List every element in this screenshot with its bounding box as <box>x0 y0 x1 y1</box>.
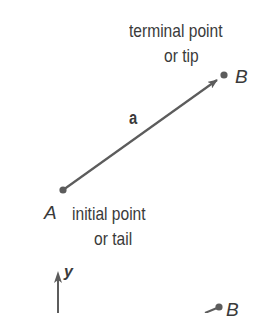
lower-vector-line <box>205 308 217 313</box>
vector-a-line <box>63 80 217 190</box>
tail-point-dot <box>59 186 66 193</box>
point-b-label: B <box>235 67 248 86</box>
terminal-point-label-line2: or tip <box>164 46 199 65</box>
lower-point-b-label: B <box>226 300 239 319</box>
terminal-point-label-line1: terminal point <box>129 21 223 40</box>
vector-name-label: a <box>129 109 137 127</box>
lower-b-point-dot <box>215 303 222 310</box>
tip-point-dot <box>220 71 227 78</box>
y-axis-label: y <box>64 264 73 280</box>
initial-point-label-line1: initial point <box>72 204 146 223</box>
initial-point-label-line2: or tail <box>94 229 132 248</box>
point-a-label: A <box>44 203 57 222</box>
